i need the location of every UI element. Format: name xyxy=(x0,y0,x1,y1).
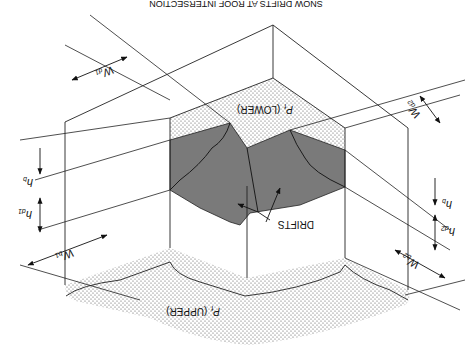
label-hd2: hd2 xyxy=(441,225,455,238)
svg-text:Wd2: Wd2 xyxy=(401,98,423,120)
svg-text:hd1: hd1 xyxy=(18,208,32,221)
label-hb-left: hb xyxy=(23,176,33,189)
roof-snow-drift-diagram: SNOW DRIFTS AT ROOF INTERSECTION xyxy=(0,0,472,361)
svg-text:DRIFTS: DRIFTS xyxy=(278,219,314,230)
diagram-canvas: SNOW DRIFTS AT ROOF INTERSECTION xyxy=(0,0,472,361)
label-hb-right: hb xyxy=(442,198,452,211)
svg-text:hb: hb xyxy=(442,198,452,211)
svg-text:SNOW DRIFTS AT ROOF INTERSECTI: SNOW DRIFTS AT ROOF INTERSECTION xyxy=(149,0,323,9)
label-drifts: DRIFTS xyxy=(278,219,314,230)
label-hd1: hd1 xyxy=(18,208,32,221)
svg-text:hd2: hd2 xyxy=(441,225,455,238)
wd2-dimension xyxy=(420,96,440,123)
upper-snow-surface xyxy=(65,248,409,345)
svg-text:hb: hb xyxy=(23,176,33,189)
label-wd2: Wd2 xyxy=(401,98,423,120)
title-fragment: SNOW DRIFTS AT ROOF INTERSECTION xyxy=(149,0,323,9)
